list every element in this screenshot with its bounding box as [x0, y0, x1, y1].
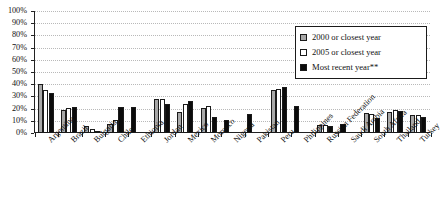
bar-group [105, 11, 128, 133]
bar-group [198, 11, 221, 133]
x-tick-mark [291, 133, 292, 137]
y-tick-label: 30% [12, 92, 27, 100]
bar [90, 129, 95, 133]
bar-group [35, 11, 58, 133]
x-tick-mark [315, 133, 316, 137]
bar [188, 101, 193, 133]
y-tick-label: 50% [12, 68, 27, 76]
y-tick-label: 0% [16, 129, 27, 137]
bar-group [268, 11, 291, 133]
bar-group [151, 11, 174, 133]
white-swatch-icon [300, 49, 307, 56]
x-tick-mark [268, 133, 269, 137]
bar [118, 107, 123, 133]
y-tick-mark [31, 133, 34, 134]
x-tick-mark [105, 133, 106, 137]
x-tick-mark [58, 133, 59, 137]
x-tick-mark [151, 133, 152, 137]
black-swatch-icon [300, 64, 307, 71]
bar [282, 87, 287, 133]
bar [38, 84, 43, 133]
bar [49, 93, 54, 133]
x-tick-mark [175, 133, 176, 137]
bar [43, 90, 48, 133]
y-tick-label: 20% [12, 104, 27, 112]
bar-group [221, 11, 244, 133]
x-tick-mark [245, 133, 246, 137]
y-tick-label: 100% [8, 7, 27, 15]
legend-item-2[interactable]: Most recent year** [300, 60, 422, 75]
x-tick-mark [408, 133, 409, 137]
bar [294, 106, 299, 133]
x-tick-mark [431, 133, 432, 137]
bar-group [128, 11, 151, 133]
legend-item-1[interactable]: 2005 or closest year [300, 45, 422, 60]
y-tick-label: 40% [12, 80, 27, 88]
y-tick-label: 10% [12, 117, 27, 125]
x-tick-mark [361, 133, 362, 137]
bar [165, 104, 170, 133]
bar-group [82, 11, 105, 133]
x-tick-mark [35, 133, 36, 137]
x-tick-mark [338, 133, 339, 137]
legend-item-0[interactable]: 2000 or closest year [300, 30, 422, 45]
x-tick-mark [82, 133, 83, 137]
x-tick-mark [128, 133, 129, 137]
x-tick-mark [384, 133, 385, 137]
bar-group [245, 11, 268, 133]
legend: 2000 or closest year 2005 or closest yea… [295, 26, 427, 79]
gray-swatch-icon [300, 34, 307, 41]
y-tick-label: 70% [12, 43, 27, 51]
legend-label-1: 2005 or closest year [312, 48, 381, 57]
legend-label-2: Most recent year** [312, 63, 378, 72]
x-tick-mark [198, 133, 199, 137]
y-tick-label: 90% [12, 19, 27, 27]
y-tick-label: 60% [12, 56, 27, 64]
y-axis: 100%90%80%70%60%50%40%30%20%10%0% [0, 0, 34, 134]
y-tick-label: 80% [12, 31, 27, 39]
legend-label-0: 2000 or closest year [312, 33, 381, 42]
bar-group [175, 11, 198, 133]
x-tick-mark [221, 133, 222, 137]
